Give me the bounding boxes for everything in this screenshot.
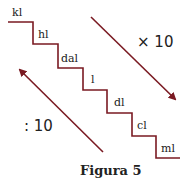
divide-label: : 10: [24, 119, 53, 134]
unit-label-cl: cl: [137, 120, 147, 131]
unit-label-ml: ml: [161, 143, 175, 154]
unit-label-dl: dl: [114, 97, 125, 108]
unit-label-hl: hl: [38, 29, 49, 40]
unit-label-dal: dal: [61, 53, 78, 64]
multiply-arrow: [91, 17, 175, 99]
staircase-diagram: [0, 0, 187, 179]
unit-label-l: l: [91, 74, 95, 85]
figure-caption: Figura 5: [80, 164, 142, 177]
multiply-label: × 10: [137, 35, 173, 50]
unit-label-kl: kl: [12, 7, 22, 18]
